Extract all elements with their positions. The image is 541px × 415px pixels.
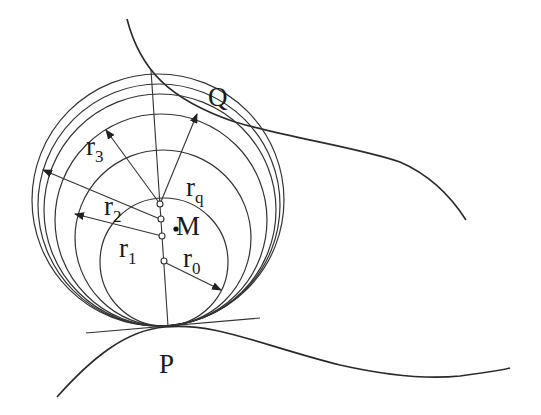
label-q: Q (208, 82, 228, 112)
center-point-3 (157, 201, 163, 207)
center-point-1 (159, 233, 165, 239)
label-p: P (159, 349, 174, 379)
center-point-2 (158, 216, 164, 222)
label-r3: r3 (86, 131, 104, 166)
upper-curve (127, 19, 466, 220)
label-r0: r0 (183, 243, 201, 278)
arrow-r2 (43, 170, 160, 219)
arrow-r3 (106, 130, 160, 204)
lower-curve (57, 326, 510, 397)
label-r2: r2 (104, 191, 122, 226)
diagram-canvas: Q P M r3 rq r2 r1 r0 (0, 0, 541, 415)
label-r1: r1 (119, 233, 137, 268)
center-point-0 (161, 258, 167, 264)
label-rq: rq (186, 172, 204, 207)
label-m: M (176, 211, 200, 241)
